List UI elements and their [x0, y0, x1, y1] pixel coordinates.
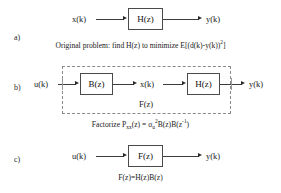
- panel-a-output-wire: [163, 19, 199, 20]
- panel-c-output-arrow-icon: [198, 153, 202, 157]
- panel-b-caption-lead: Factorize P: [92, 120, 126, 129]
- panel-a-caption: Original problem: find H(z) to minimize …: [0, 39, 281, 50]
- panel-a-input-arrow-icon: [123, 16, 127, 20]
- panel-a-caption-lead: Original problem: find H(z) to minimize …: [55, 41, 220, 50]
- panel-c-output-label: y(k): [206, 151, 220, 161]
- panel-b-mid-arrow-icon-2: [182, 81, 186, 85]
- panel-b-mid-wire-2: [163, 84, 183, 85]
- panel-b-caption-mid-1: (z) = σ: [132, 120, 153, 129]
- panel-label-c: c): [14, 155, 20, 164]
- panel-a-output-label: y(k): [206, 14, 220, 24]
- panel-c-input-arrow-icon: [123, 153, 127, 157]
- panel-label-b: b): [14, 83, 21, 92]
- panel-b-input-label: u(k): [34, 79, 48, 89]
- panel-b-caption-tail: ): [187, 120, 190, 129]
- panel-b-block-b: B(z): [80, 73, 113, 95]
- figure-canvas: a) x(k) H(z) y(k) Original problem: find…: [0, 0, 281, 193]
- panel-b-caption-sub-u: u: [152, 124, 155, 130]
- panel-b-caption: Factorize Pxx(z) = σu2B(z)B(z-1): [0, 118, 281, 130]
- panel-c-input-label: u(k): [72, 151, 86, 161]
- panel-b-caption-mid-2: B(z)B(z: [158, 120, 182, 129]
- panel-b-mid-wire-1: [113, 84, 134, 85]
- panel-a-input-label: x(k): [72, 14, 86, 24]
- panel-c-caption: F(z)=H(z)B(z): [0, 173, 281, 182]
- panel-b-middle-label: x(k): [140, 79, 154, 89]
- panel-b-output-arrow-icon: [241, 81, 245, 85]
- panel-a-block-h: H(z): [128, 8, 163, 30]
- panel-a-input-wire: [96, 19, 124, 20]
- panel-b-left-boundary-tick: [62, 78, 63, 90]
- panel-b-output-label: y(k): [249, 79, 263, 89]
- panel-c-output-wire: [163, 156, 199, 157]
- panel-b-right-boundary-tick: [231, 78, 232, 90]
- panel-a-caption-tail: ]: [223, 41, 226, 50]
- panel-a-output-arrow-icon: [198, 16, 202, 20]
- panel-b-block-h: H(z): [187, 73, 220, 95]
- panel-b-input-wire: [58, 84, 76, 85]
- panel-c-block-f: F(z): [128, 145, 163, 167]
- panel-b-input-arrow-icon: [75, 81, 79, 85]
- panel-c-input-wire: [96, 156, 124, 157]
- panel-b-mid-arrow-icon-1: [133, 81, 137, 85]
- panel-b-group-label: F(z): [139, 99, 153, 109]
